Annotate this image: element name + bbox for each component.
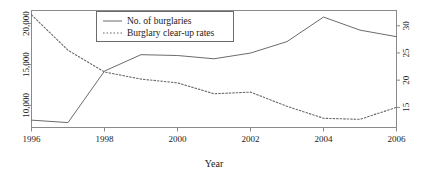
left-axis-tick-label: 10,000 [21,93,31,118]
x-axis-tick-label: 2000 [169,134,188,144]
right-axis-ticks [397,26,401,108]
left-axis-tick-label: 15,000 [21,52,31,77]
x-axis-tick-label: 1998 [96,134,115,144]
x-axis-tick-label: 2002 [242,134,260,144]
legend-label-no-of-burglaries: No. of burglaries [127,16,192,26]
x-axis-ticks [32,128,397,132]
legend-label-burglary-clear-up-rates: Burglary clear-up rates [127,28,215,38]
right-axis-tick-labels: 15202530 [401,21,411,112]
right-axis-tick-label: 15 [401,102,411,112]
chart-legend: No. of burglaries Burglary clear-up rate… [97,12,234,42]
right-axis-tick-label: 25 [401,48,411,58]
x-axis-tick-labels: 199619982000200220042006 [23,134,407,144]
x-axis-title: Year [205,158,224,169]
right-axis-tick-label: 30 [401,21,411,31]
burglary-dual-axis-line-chart: 10,00015,00020,000 15202530 199619982000… [0,0,434,176]
left-axis-tick-labels: 10,00015,00020,000 [21,11,31,118]
x-axis-tick-label: 2004 [315,134,334,144]
left-axis-tick-label: 20,000 [21,11,31,36]
x-axis-tick-label: 1996 [23,134,42,144]
x-axis-tick-label: 2006 [388,134,407,144]
right-axis-tick-label: 20 [401,75,411,85]
chart-figure: 10,00015,00020,000 15202530 199619982000… [0,0,434,176]
